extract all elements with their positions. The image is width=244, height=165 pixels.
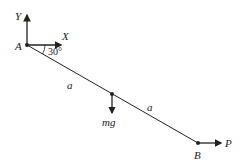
point-b-label: B	[194, 150, 201, 161]
segment-2-label: a	[147, 102, 153, 113]
angle-arc	[43, 45, 45, 54]
force-p-label: P	[225, 138, 232, 149]
segment-1-label: a	[67, 80, 73, 91]
point-a-dot	[25, 43, 29, 47]
x-axis-label: X	[62, 31, 69, 42]
point-b-dot	[196, 141, 200, 145]
weight-label: mg	[102, 117, 115, 128]
diagram-graphics	[0, 0, 244, 165]
point-a-label: A	[15, 41, 22, 52]
midpoint-dot	[110, 92, 114, 96]
angle-label: 30°	[48, 47, 62, 57]
rod-diagram: Y X A 30° a a mg B P	[0, 0, 244, 165]
y-axis-label: Y	[15, 11, 21, 22]
